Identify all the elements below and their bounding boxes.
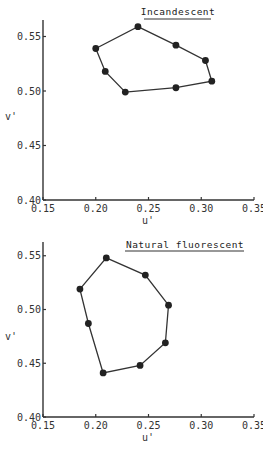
y-axis-label: v': [5, 111, 17, 122]
data-point: [165, 302, 172, 309]
data-point: [137, 362, 144, 369]
y-tick-label: 0.45: [17, 140, 41, 151]
data-point: [173, 42, 180, 49]
data-point: [122, 89, 129, 96]
y-tick-label: 0.50: [17, 86, 41, 97]
x-tick-label: 0.25: [136, 203, 160, 214]
x-tick-label: 0.35: [242, 203, 263, 214]
data-point: [173, 84, 180, 91]
x-axis-label: u': [142, 215, 154, 226]
x-axis-label: u': [142, 432, 154, 443]
y-tick-label: 0.45: [17, 358, 41, 369]
x-tick-label: 0.35: [242, 420, 263, 431]
y-tick-label: 0.55: [17, 31, 41, 42]
y-tick-label: 0.40: [17, 412, 41, 423]
x-tick-label: 0.20: [84, 203, 108, 214]
x-tick-label: 0.30: [189, 203, 213, 214]
data-point: [202, 57, 209, 64]
y-tick-label: 0.55: [17, 250, 41, 261]
data-point: [208, 78, 215, 85]
data-point: [100, 370, 107, 377]
data-point: [85, 320, 92, 327]
data-point: [103, 255, 110, 262]
figure: 0.150.200.250.300.350.400.450.500.55u'v'…: [0, 0, 263, 450]
y-axis-label: v': [5, 331, 17, 342]
data-point: [92, 45, 99, 52]
chart-panel-2: 0.150.200.250.300.350.400.450.500.55u'v'…: [5, 239, 263, 443]
chart-title: Natural fluorescent: [126, 239, 244, 250]
data-point: [162, 339, 169, 346]
y-tick-label: 0.50: [17, 304, 41, 315]
y-tick-label: 0.40: [17, 195, 41, 206]
gamut-polygon: [80, 258, 169, 373]
x-tick-label: 0.30: [189, 420, 213, 431]
x-tick-label: 0.20: [84, 420, 108, 431]
gamut-polygon: [96, 27, 212, 92]
data-point: [135, 23, 142, 30]
data-point: [102, 68, 109, 75]
data-point: [77, 286, 84, 293]
chart-panel-1: 0.150.200.250.300.350.400.450.500.55u'v'…: [5, 6, 263, 226]
data-point: [142, 272, 149, 279]
chart-title: Incandescent: [141, 6, 216, 17]
x-tick-label: 0.25: [136, 420, 160, 431]
